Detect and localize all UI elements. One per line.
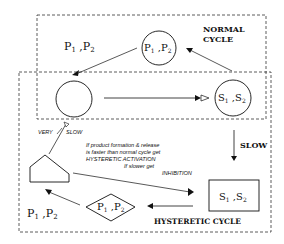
hysteretic-cycle-label: HYSTERETIC CYCLE xyxy=(154,217,241,226)
circle-top-label: P1 ,P2 xyxy=(144,42,172,54)
arrowhead-icon xyxy=(186,48,193,53)
arrowhead-icon xyxy=(188,188,194,196)
free-enzyme-circle xyxy=(56,81,92,117)
annotation-line5: INHIBITION xyxy=(162,170,193,176)
arrow-catalysis xyxy=(190,50,232,71)
arrowhead-icon xyxy=(72,70,79,76)
very-slow-label: SLOW xyxy=(66,129,83,135)
products-label-bottom-left: P1 ,P2 xyxy=(27,207,58,221)
diagram-canvas: NORMAL CYCLE P1 ,P2 P1 ,P2 S1 ,S2 VERY S… xyxy=(0,0,284,244)
annotation-line3: HYSTERETIC ACTIVATION xyxy=(86,156,157,162)
box-right-label: S1 ,S2 xyxy=(219,191,247,203)
circle-right-label: S1 ,S2 xyxy=(218,92,246,104)
arrow-hysteretic-release xyxy=(49,192,80,205)
arrowhead-icon xyxy=(45,189,52,195)
arrowhead-icon xyxy=(231,156,237,161)
slash-mark-icon xyxy=(57,128,62,134)
annotation-line2: is faster than normal cycle get xyxy=(86,149,161,155)
open-arrowhead-icon xyxy=(201,95,209,101)
diamond-label: P1 ,P2 xyxy=(97,201,125,213)
slow-label: SLOW xyxy=(240,140,268,150)
hysteretic-enzyme-pentagon xyxy=(30,155,69,182)
normal-cycle-label-line1: NORMAL xyxy=(203,24,245,34)
annotation-line4: If slower get xyxy=(124,163,155,169)
very-label: VERY xyxy=(38,129,53,135)
annotation-line1: If product formation & release xyxy=(86,142,159,148)
arrowhead-icon xyxy=(147,203,153,209)
double-arrowhead-icon xyxy=(195,95,201,101)
products-label-top-left: P1 ,P2 xyxy=(64,40,95,54)
normal-cycle-label-line2: CYCLE xyxy=(203,34,233,44)
